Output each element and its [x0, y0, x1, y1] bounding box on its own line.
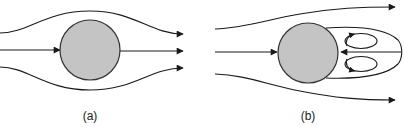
diagram-canvas — [0, 0, 404, 127]
lower-eddy-arrow — [346, 59, 354, 71]
cylinder-b — [278, 23, 338, 83]
flow-diagram: (a) (b) — [0, 0, 404, 127]
panel-a-label: (a) — [83, 110, 98, 122]
upper-eddy-arrow — [346, 34, 354, 46]
panel-b — [215, 7, 402, 100]
panel-b-label: (b) — [301, 110, 316, 122]
cylinder-a — [60, 20, 120, 80]
panel-a — [0, 11, 183, 90]
